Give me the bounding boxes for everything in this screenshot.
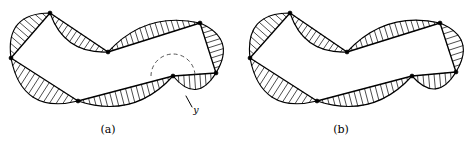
hatch-tick [416,20,419,29]
hatch-tick [117,44,119,49]
hatch-tick [384,26,388,39]
hatch-tick [356,44,358,49]
polygon-vertex-dot [454,70,458,74]
hatch-tick [13,61,16,66]
hatch-tick [33,80,44,98]
hatch-tick [451,52,464,56]
polygon-vertex-dot [76,99,80,103]
hatch-tick [150,24,154,37]
hatch-tick [375,86,379,101]
hatch-tick [25,73,35,89]
hatch-tick [20,22,33,33]
hatch-tick [152,82,155,93]
hatch-tick [38,83,49,100]
hatch-tick [323,40,329,49]
hatch-tick [256,26,269,37]
hatch-tick [252,61,255,66]
hatch-tick [205,34,217,38]
hatch-tick [268,76,279,93]
hatch-tick [365,89,369,104]
hatch-tick [395,23,399,36]
hatch-tick [329,43,334,51]
hatch-tick [374,30,378,42]
polygon-vertex-dot [345,50,349,54]
hatch-tick [131,87,135,102]
hatch-tick [423,75,424,86]
hatch-tick [95,46,99,52]
hatch-tick [277,83,288,100]
hatch-tick [205,74,206,85]
hatch-tick [257,67,265,79]
polygon-vertex-dot [248,56,252,60]
hatch-tick [275,14,283,21]
hatch-tick [343,94,346,106]
hatch-tick [188,21,190,26]
hatch-tick [130,33,133,44]
hatch-tick [434,74,435,89]
hatch-tick [35,15,43,22]
hatch-tick [259,22,272,33]
hatch-tick [89,98,91,104]
hatch-tick [210,49,224,53]
hatch-tick [15,64,21,73]
hatch-tick [44,86,54,102]
hatch-tick [301,25,307,34]
hatch-tick [370,87,374,102]
hatch-tick [70,31,77,42]
hatch-tick [11,37,21,46]
hatch-tick [442,27,448,29]
polygon-vertex-dot [106,50,110,54]
polygon-vertex-dot [410,74,414,78]
hatch-tick [349,93,353,107]
hatch-tick [65,28,72,38]
hatch-tick [428,21,430,26]
polygon-vertex-dot [315,99,319,103]
hatch-tick [200,74,201,88]
hatch-tick [62,25,68,34]
hatch-tick [445,35,458,39]
hatch-tick [177,20,180,29]
hatch-tick [313,34,320,45]
hatch-tick [295,19,299,25]
hatch-tick [145,26,149,39]
hatch-tick [338,95,341,106]
panel-a: y [9,11,223,115]
hatch-tick [94,97,96,106]
hatch-tick [386,83,389,95]
polygon-vertex-dot [438,21,442,25]
hatch-tick [422,20,424,27]
hatch-tick [298,22,303,30]
polygon-vertex-dot [214,71,218,75]
hatch-tick [283,86,293,102]
hatch-tick [110,93,114,107]
hatch-tick [56,92,64,104]
hatch-tick [401,79,403,85]
hatch-tick [264,73,274,89]
hatch-tick [195,75,196,90]
hatch-tick [334,46,338,52]
hatch-tick [29,76,40,93]
inscribed-polygon-figure: y (a) (b) [0,0,466,141]
hatch-tick [379,28,383,41]
hatch-tick [391,82,394,93]
hatch-tick [182,20,184,27]
hatch-tick [18,67,26,79]
hatch-tick [211,54,223,58]
hatch-tick [360,40,362,47]
dashed-reference-arc [151,54,195,76]
hatch-tick [126,89,130,104]
hatch-tick [365,36,368,45]
hatch-tick [359,90,363,105]
hatch-tick [120,90,124,105]
hatch-tick [166,21,170,33]
hatch-group [10,13,223,106]
hatch-tick [302,95,308,104]
hatch-tick [251,37,261,46]
hatch-tick [16,27,29,38]
hatch-tick [328,98,330,104]
hatch-tick [354,91,358,106]
hatch-tick [79,37,86,47]
hatch-tick [10,43,18,50]
polygon-vertex-dot [198,21,202,25]
figure-container: y (a) (b) [0,0,466,141]
